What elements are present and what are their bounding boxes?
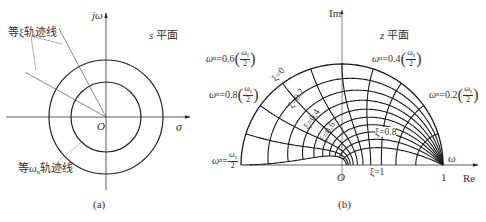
z-plane-unit-point-label: 1 [441, 172, 447, 183]
z-plane-title: z 平面 [380, 30, 409, 41]
const-wn-curve [241, 156, 346, 165]
z-plane-imag-axis-label: Im [329, 8, 341, 19]
z-plane-origin-label: O [337, 172, 345, 183]
zeta-contour-label: ξ=0.8 [375, 127, 396, 137]
s-plane-real-axis-label: σ [176, 121, 182, 133]
z-plane-omega-label: ω [448, 153, 456, 164]
wn-contour-label: ωn=0.4(ωs2) [372, 49, 422, 68]
const-wn-locus-label: 等ωn轨迹线 [18, 163, 73, 176]
panel-b-caption: (b) [338, 199, 351, 210]
const-zeta-locus-label: 等ξ轨迹线 [8, 27, 57, 38]
z-plane-real-axis-label: Re [463, 173, 475, 184]
s-plane-origin-label: O [97, 121, 105, 132]
zeta-label-leader [31, 36, 62, 71]
s-plane-imag-axis-label: jω [92, 10, 103, 21]
wn-contour-label: ωn=0.6(ωs2) [206, 49, 256, 68]
const-zeta-curve [343, 148, 443, 165]
wn-contour-label: ωn=ωs2 [212, 151, 238, 170]
s-plane-title: s 平面 [149, 30, 178, 41]
panel-a-caption: (a) [93, 199, 105, 210]
wn-contour-label: ωn=0.8(ωs2) [209, 85, 259, 104]
const-wn-curve [381, 83, 401, 165]
zeta-contour-label: ξ=1 [370, 167, 384, 177]
wn-contour-label: ωn=0.2(ωs2) [429, 85, 479, 104]
diagram-canvas [0, 0, 486, 222]
